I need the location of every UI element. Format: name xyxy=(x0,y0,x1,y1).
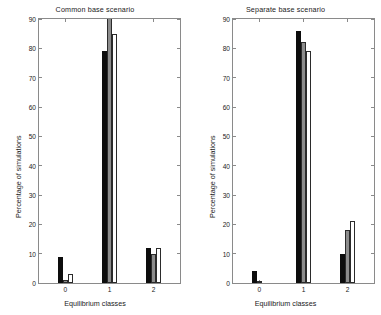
y-tick-label: 10 xyxy=(29,250,36,257)
y-axis-title: Percentage of simulations xyxy=(14,135,23,218)
y-tick-label: 70 xyxy=(29,74,36,81)
x-axis-title: Equilibrium classes xyxy=(0,299,190,308)
bars-layer xyxy=(39,19,180,283)
bar-series-3-class-1 xyxy=(306,51,311,283)
y-tick-label: 40 xyxy=(223,162,230,169)
bars-layer xyxy=(233,19,374,283)
bar-series-3-class-1 xyxy=(112,34,117,283)
y-tick-label: 90 xyxy=(223,16,230,23)
plot-area: 0102030405060708090 012 xyxy=(232,18,375,284)
y-tick-label: 20 xyxy=(29,221,36,228)
x-tick-label: 0 xyxy=(258,286,262,293)
bar-series-1-class-0 xyxy=(252,271,257,283)
panel-common-base-scenario: Common base scenario Percentage of simul… xyxy=(0,0,190,315)
figure-two-panel-bar-charts: Common base scenario Percentage of simul… xyxy=(0,0,381,315)
bar-series-1-class-1 xyxy=(102,51,107,283)
y-axis-title: Percentage of simulations xyxy=(208,135,217,218)
plot-area: 0102030405060708090 012 xyxy=(38,18,181,284)
x-tick-label: 1 xyxy=(302,286,306,293)
panel-title: Common base scenario xyxy=(0,5,190,14)
x-tick-label: 2 xyxy=(152,286,156,293)
y-tick-label: 70 xyxy=(223,74,230,81)
x-tick-label: 1 xyxy=(108,286,112,293)
y-tick-label: 50 xyxy=(223,133,230,140)
bar-series-1-class-2 xyxy=(146,248,151,283)
y-tick-label: 30 xyxy=(223,192,230,199)
panel-title: Separate base scenario xyxy=(190,5,381,14)
bar-series-2-class-0 xyxy=(257,281,262,283)
bar-series-1-class-2 xyxy=(340,254,345,283)
y-tick-label: 80 xyxy=(29,45,36,52)
x-tick-label: 0 xyxy=(64,286,68,293)
y-tick-label: 60 xyxy=(223,104,230,111)
y-tick-label: 20 xyxy=(223,221,230,228)
y-tick-label: 0 xyxy=(32,280,36,287)
y-tick-label: 60 xyxy=(29,104,36,111)
bar-series-2-class-1 xyxy=(301,42,306,283)
x-axis-title: Equilibrium classes xyxy=(190,299,381,308)
panel-separate-base-scenario: Separate base scenario Percentage of sim… xyxy=(190,0,381,315)
bar-series-2-class-0 xyxy=(63,280,68,283)
bar-series-2-class-1 xyxy=(107,19,112,283)
y-tick-label: 10 xyxy=(223,250,230,257)
bar-series-3-class-2 xyxy=(156,248,161,283)
bar-series-3-class-2 xyxy=(350,221,355,283)
y-tick-label: 90 xyxy=(29,16,36,23)
y-tick-label: 0 xyxy=(226,280,230,287)
bar-series-1-class-1 xyxy=(296,31,301,283)
x-tick-label: 2 xyxy=(346,286,350,293)
bar-series-2-class-2 xyxy=(151,254,156,283)
bar-series-3-class-0 xyxy=(68,274,73,283)
y-tick-label: 30 xyxy=(29,192,36,199)
y-tick-label: 40 xyxy=(29,162,36,169)
y-tick-label: 80 xyxy=(223,45,230,52)
bar-series-1-class-0 xyxy=(58,257,63,283)
bar-series-2-class-2 xyxy=(345,230,350,283)
y-tick-label: 50 xyxy=(29,133,36,140)
